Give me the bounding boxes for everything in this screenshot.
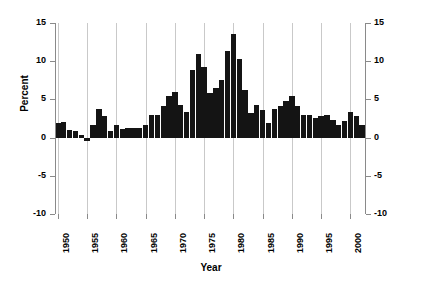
bar (330, 120, 335, 138)
bar (178, 105, 183, 138)
y-tick-label-right: -10 (374, 209, 400, 218)
bar (313, 118, 318, 138)
bar (336, 125, 341, 137)
bar (260, 110, 265, 138)
bar (307, 115, 312, 138)
gridline-1965 (146, 23, 147, 214)
gridline-1955 (87, 23, 88, 214)
x-tick-label: 1995 (325, 233, 334, 253)
y-tick-right (366, 23, 371, 24)
bar (318, 116, 323, 137)
x-tick (321, 214, 322, 219)
gridline-1950 (58, 23, 59, 214)
bar (120, 129, 125, 137)
y-tick-label-left: 15 (20, 18, 46, 27)
bar (324, 115, 329, 138)
bar (242, 90, 247, 137)
y-tick-label-right: 15 (374, 18, 400, 27)
y-tick-right (366, 214, 371, 215)
bar (207, 93, 212, 137)
y-tick-left (50, 176, 55, 177)
x-tick-label: 1950 (62, 233, 71, 253)
gridline-1960 (116, 23, 117, 214)
bar (149, 115, 154, 138)
bar (248, 113, 253, 137)
bar (283, 101, 288, 138)
bar (96, 109, 101, 137)
bar (73, 131, 78, 137)
bar (342, 121, 347, 138)
x-tick-label: 1970 (179, 233, 188, 253)
x-tick (233, 214, 234, 219)
x-tick-label: 1990 (296, 233, 305, 253)
x-tick (58, 214, 59, 219)
bar (254, 105, 259, 138)
y-tick-right (366, 99, 371, 100)
bar (161, 106, 166, 138)
x-tick (116, 214, 117, 219)
bar (102, 116, 107, 137)
bar (125, 128, 130, 137)
bar (278, 106, 283, 137)
x-tick-label: 1985 (267, 233, 276, 253)
bar (79, 135, 84, 137)
x-tick (292, 214, 293, 219)
y-tick-right (366, 61, 371, 62)
y-axis-right-spine (365, 23, 366, 214)
bar (213, 88, 218, 138)
bar (166, 96, 171, 138)
y-tick-left (50, 23, 55, 24)
bar (201, 67, 206, 137)
bar (108, 131, 113, 137)
bar (231, 34, 236, 137)
bar (67, 130, 72, 138)
bar (295, 106, 300, 138)
x-tick-label: 1980 (237, 233, 246, 253)
y-tick-label-right: 5 (374, 94, 400, 103)
bar (348, 112, 353, 138)
x-tick-label: 1965 (150, 233, 159, 253)
x-tick (204, 214, 205, 219)
y-tick-label-right: 10 (374, 56, 400, 65)
x-tick-label: 1960 (120, 233, 129, 253)
bar (225, 51, 230, 137)
bar (272, 109, 277, 137)
y-tick-left (50, 61, 55, 62)
bar (61, 122, 66, 138)
y-axis-title: Percent (19, 64, 30, 124)
bar (359, 125, 364, 137)
y-tick-label-right: 0 (374, 133, 400, 142)
x-tick-label: 2000 (354, 233, 363, 253)
bar (155, 115, 160, 138)
bar (301, 115, 306, 138)
x-tick (175, 214, 176, 219)
bar (289, 96, 294, 137)
bar (172, 92, 177, 138)
y-tick-label-left: -5 (20, 171, 46, 180)
bar (354, 116, 359, 137)
chart-figure: 151050-5-10 151050-5-10 1950195519601965… (0, 0, 422, 281)
x-axis-title: Year (0, 262, 422, 273)
x-tick-label: 1955 (91, 233, 100, 253)
y-axis-left-spine (55, 23, 56, 214)
y-tick-right (366, 138, 371, 139)
bar (143, 125, 148, 138)
x-tick (350, 214, 351, 219)
y-tick-label-left: 0 (20, 133, 46, 142)
x-tick (146, 214, 147, 219)
bar (219, 80, 224, 138)
bar (131, 128, 136, 138)
bar (90, 125, 95, 137)
bar (137, 128, 142, 138)
plot-area (55, 23, 365, 214)
x-tick (87, 214, 88, 219)
bar (196, 54, 201, 138)
y-tick-label-right: -5 (374, 171, 400, 180)
x-tick (263, 214, 264, 219)
bar (266, 123, 271, 138)
y-tick-left (50, 214, 55, 215)
y-tick-left (50, 99, 55, 100)
x-tick-label: 1975 (208, 233, 217, 253)
bar (55, 123, 60, 138)
bar (84, 138, 89, 141)
